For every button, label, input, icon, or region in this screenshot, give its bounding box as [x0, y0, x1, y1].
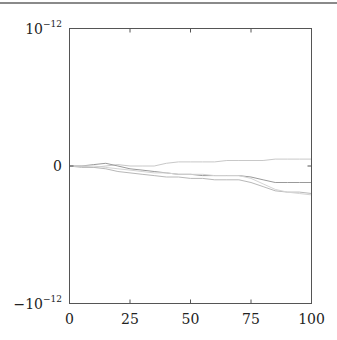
x-tick-label: 75	[242, 311, 260, 327]
line-chart: 0255075100−10−12010−12	[0, 0, 337, 340]
x-tick-label: 100	[298, 311, 325, 327]
x-tick-label: 0	[65, 311, 74, 327]
y-tick-label: 0	[53, 158, 62, 174]
series-layer	[70, 159, 312, 195]
y-tick-label: 10−12	[25, 19, 62, 37]
x-tick-label: 25	[121, 311, 139, 327]
x-tick-label: 50	[182, 311, 200, 327]
y-tick-label: −10−12	[13, 294, 62, 312]
